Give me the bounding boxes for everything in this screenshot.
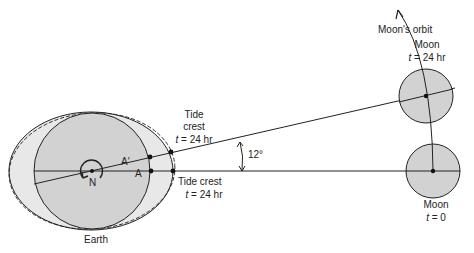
tide-crest-upper-label-1: Tide — [184, 109, 204, 120]
moon-t0-title: Moon — [423, 199, 448, 210]
tide-crest-upper-dot — [169, 150, 174, 155]
tide-crest-upper-time: t = 24 hr — [176, 134, 214, 145]
point-a-label: A — [135, 168, 142, 179]
moon-t0-time: t = 0 — [426, 212, 446, 223]
north-pole-label: N — [89, 177, 96, 188]
angle-arc — [240, 142, 243, 171]
tide-crest-lower-time: t = 24 hr — [186, 189, 224, 200]
point-a-prime-label: A′ — [121, 156, 130, 167]
orbit-arrow-icon — [396, 10, 403, 19]
point-a-prime-dot — [148, 155, 153, 160]
earth-center-dot — [90, 169, 94, 173]
moon-t24-title: Moon — [414, 39, 439, 50]
tide-crest-lower-dot — [171, 169, 176, 174]
point-a-dot — [149, 169, 154, 174]
earth-label: Earth — [84, 234, 108, 245]
moon-t0-center-dot — [431, 169, 435, 173]
tide-crest-lower-label: Tide crest — [178, 176, 222, 187]
tidal-diagram: Moon's orbit Moon t = 24 hr Moon t = 0 T… — [0, 0, 474, 253]
moon-t24-center-dot — [424, 94, 428, 98]
moon-t24-time: t = 24 hr — [409, 52, 447, 63]
tide-crest-upper-label-2: crest — [183, 121, 205, 132]
moons-orbit-label: Moon's orbit — [378, 24, 432, 35]
angle-label: 12° — [248, 149, 263, 160]
